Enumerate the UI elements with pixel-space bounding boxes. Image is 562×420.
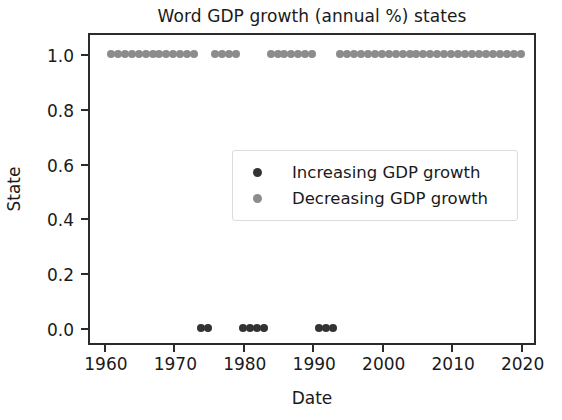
y-axis-tick-label: 0.2	[47, 265, 74, 285]
data-point	[329, 324, 337, 332]
legend-item-label: Decreasing GDP growth	[292, 189, 488, 208]
data-point	[232, 50, 240, 58]
y-axis-tick-label: 0.6	[47, 156, 74, 176]
legend-item-label: Increasing GDP growth	[292, 163, 481, 182]
chart-title: Word GDP growth (annual %) states	[88, 6, 536, 26]
x-axis-label: Date	[88, 388, 536, 408]
x-axis-tick-label: 2020	[501, 354, 544, 374]
y-axis-label: State	[4, 167, 24, 212]
y-axis-tick: 1.0	[81, 54, 90, 56]
x-axis-tick-label: 1980	[223, 354, 266, 374]
x-axis-tick-label: 1990	[293, 354, 336, 374]
x-axis-tick: 2010	[451, 343, 453, 352]
y-axis-tick-label: 0.0	[47, 320, 74, 340]
data-point	[517, 50, 525, 58]
x-axis-tick-label: 2010	[432, 354, 475, 374]
data-point	[260, 324, 268, 332]
y-axis-tick-label: 0.8	[47, 101, 74, 121]
x-axis-tick: 1990	[312, 343, 314, 352]
y-axis-tick-label: 0.4	[47, 210, 74, 230]
x-axis-tick-label: 1960	[84, 354, 127, 374]
x-axis-tick-label: 2000	[362, 354, 405, 374]
y-axis-tick: 0.8	[81, 109, 90, 111]
chart-legend: Increasing GDP growthDecreasing GDP grow…	[232, 150, 518, 221]
x-axis-tick: 2000	[382, 343, 384, 352]
legend-marker-dot-icon	[253, 194, 262, 203]
legend-item[interactable]: Increasing GDP growth	[233, 159, 517, 185]
y-axis-tick: 0.6	[81, 164, 90, 166]
y-axis-tick: 0.4	[81, 218, 90, 220]
x-axis-tick: 1970	[173, 343, 175, 352]
data-point	[190, 50, 198, 58]
x-axis-tick: 1960	[104, 343, 106, 352]
x-axis-tick-label: 1970	[154, 354, 197, 374]
data-point	[308, 50, 316, 58]
data-point	[204, 324, 212, 332]
legend-item[interactable]: Decreasing GDP growth	[233, 185, 517, 211]
x-axis-tick: 2020	[521, 343, 523, 352]
x-axis-tick: 1980	[243, 343, 245, 352]
y-axis-tick: 0.0	[81, 328, 90, 330]
y-axis-tick: 0.2	[81, 273, 90, 275]
y-axis-tick-label: 1.0	[47, 46, 74, 66]
legend-marker-dot-icon	[253, 168, 262, 177]
chart-figure: Word GDP growth (annual %) states 0.00.2…	[0, 0, 562, 420]
